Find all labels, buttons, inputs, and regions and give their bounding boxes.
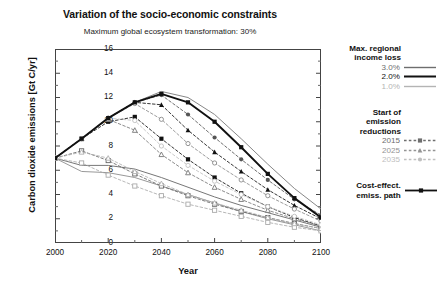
data-point (292, 207, 296, 211)
data-point (186, 163, 190, 167)
data-point (213, 135, 217, 139)
data-point (213, 161, 217, 165)
data-point (186, 192, 191, 197)
legend-section-income-loss-title: Max. regional income loss (344, 44, 437, 63)
legend-item-label: 2.0% (366, 72, 403, 81)
data-point (80, 161, 84, 165)
legend-item-start-2025: 2025 (344, 145, 437, 155)
data-point (418, 158, 422, 162)
legend-cost-effective-label: Cost-effect. emiss. path (344, 181, 404, 200)
data-point (132, 128, 137, 133)
legend-items-income-loss: 3.0%2.0%1.0% (344, 63, 437, 92)
legend-item-income-1.0%: 1.0% (344, 82, 437, 92)
x-tick-label: 2080 (246, 248, 290, 257)
data-point (133, 184, 137, 188)
data-point (106, 173, 110, 177)
data-point (319, 223, 321, 227)
data-point (159, 152, 164, 157)
data-point (239, 192, 243, 196)
legend-item-income-3.0%: 3.0% (344, 63, 437, 73)
data-point (212, 185, 217, 190)
legend-item-income-2.0%: 2.0% (344, 72, 437, 82)
data-point (292, 214, 296, 218)
legend-cost-effective-row: Cost-effect. emiss. path (344, 181, 437, 200)
legend-title-line1: Max. regional (344, 44, 401, 53)
data-point (319, 215, 321, 219)
legend-item-label: 1.0% (366, 82, 403, 91)
data-point (266, 178, 270, 182)
data-point (186, 141, 190, 145)
data-point (106, 156, 111, 161)
chart-canvas (55, 49, 321, 243)
data-point (159, 137, 163, 141)
data-point (213, 120, 217, 124)
x-tick-label: 2100 (299, 248, 343, 257)
data-point (186, 100, 190, 104)
data-point (239, 214, 243, 218)
data-point (239, 169, 244, 174)
data-point (266, 205, 270, 209)
data-point (266, 172, 270, 176)
x-tick-label: 2060 (193, 248, 237, 257)
x-tick-label: 2000 (33, 248, 77, 257)
legend-item-start-2015: 2015 (344, 136, 437, 146)
legend-swatch (403, 72, 437, 81)
chart-title: Variation of the socio-economic constrai… (0, 8, 340, 20)
data-point (133, 100, 137, 104)
legend-title2-line1: Start of (344, 108, 401, 117)
legend-ce-line2: emiss. path (344, 191, 401, 200)
data-point (159, 194, 163, 198)
chart-figure: Variation of the socio-economic constrai… (0, 0, 437, 285)
x-tick-label: 2040 (139, 248, 183, 257)
data-point (239, 178, 243, 182)
data-point (159, 144, 163, 148)
data-point (186, 112, 190, 116)
data-point (159, 117, 163, 121)
legend-item-label: 2025 (366, 146, 403, 155)
data-point (133, 118, 137, 122)
chart-legend: Max. regional income loss 3.0%2.0%1.0% S… (344, 44, 437, 200)
data-point (266, 220, 270, 224)
legend-title2-line3: reductions (344, 127, 401, 136)
data-point (186, 170, 191, 175)
data-point (292, 196, 296, 200)
legend-swatch (403, 155, 437, 164)
data-point (212, 200, 217, 205)
data-point (265, 187, 270, 192)
legend-item-label: 2015 (366, 136, 403, 145)
legend-spacer-1 (344, 91, 437, 108)
legend-items-start-year: 201520252035 (344, 136, 437, 165)
legend-cost-effective-swatch (404, 186, 437, 195)
plot-area (55, 49, 321, 243)
data-point (418, 139, 422, 143)
series-6 (55, 150, 321, 231)
legend-title2-line2: emission (344, 117, 401, 126)
x-axis-label: Year (55, 266, 321, 276)
data-point (55, 156, 57, 160)
y-axis-label: Carbon dioxide emissions [Gt C/yr] (27, 40, 37, 230)
legend-section-start-title: Start of emission reductions (344, 108, 437, 136)
data-point (106, 116, 110, 120)
legend-swatch (403, 146, 437, 155)
legend-swatch (403, 63, 437, 72)
legend-spacer-2 (344, 164, 437, 181)
data-point (239, 157, 243, 161)
chart-subtitle: Maximum global ecosystem transformation:… (0, 27, 340, 36)
x-tick-label: 2020 (86, 248, 130, 257)
data-point (239, 197, 244, 202)
legend-swatch (403, 136, 437, 145)
data-point (419, 189, 423, 193)
legend-title-line2: income loss (344, 53, 401, 62)
data-point (159, 181, 164, 186)
data-point (213, 179, 217, 183)
data-point (239, 208, 244, 213)
data-point (239, 145, 243, 149)
legend-item-label: 3.0% (366, 63, 403, 72)
data-point (186, 202, 190, 206)
data-point (80, 137, 84, 141)
legend-item-start-2035: 2035 (344, 155, 437, 165)
data-point (266, 194, 270, 198)
series-0 (55, 92, 321, 220)
legend-item-label: 2035 (366, 155, 403, 164)
data-point (159, 92, 163, 96)
